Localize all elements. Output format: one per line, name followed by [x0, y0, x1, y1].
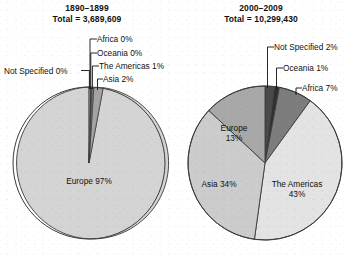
left-pie-graphic [0, 0, 174, 256]
right-slice-label-americas-line1: The Americas [272, 179, 323, 189]
figure-canvas: 1890–1899 Total = 3,689,609 [0, 0, 348, 256]
right-callout-africa: Africa 7% [302, 83, 338, 93]
right-slice-label-americas-line2: 43% [289, 189, 306, 199]
right-slice-label-americas: The Americas 43% [258, 179, 336, 199]
right-callout-not-specified: Not Specified 2% [274, 42, 338, 52]
pie-chart-2000-2009: 2000–2009 Total = 10,299,430 [174, 0, 348, 256]
pie-chart-1890-1899: 1890–1899 Total = 3,689,609 [0, 0, 174, 256]
left-callout-americas: The Americas 1% [99, 61, 164, 71]
right-pie-slices [188, 86, 342, 240]
right-slice-label-europe-line2: 13% [226, 133, 243, 143]
right-slice-label-europe: Europe 13% [206, 123, 262, 143]
left-pie-slices [17, 87, 169, 239]
left-callout-asia: Asia 2% [103, 74, 133, 84]
left-callout-oceania: Oceania 0% [97, 48, 142, 58]
left-callout-not-specified: Not Specified 0% [4, 66, 68, 76]
left-slice-label-europe: Europe 97% [39, 176, 139, 186]
left-callout-africa: Africa 0% [97, 34, 133, 44]
right-slice-label-europe-line1: Europe [221, 123, 248, 133]
right-slice-label-asia: Asia 34% [186, 179, 252, 189]
right-callout-oceania: Oceania 1% [283, 63, 328, 73]
